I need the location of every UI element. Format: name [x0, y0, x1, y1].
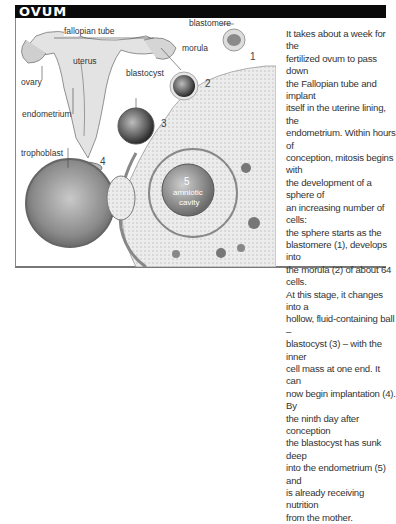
- text-line: blastocyst (3) – with the inner: [286, 338, 396, 363]
- label-blastomere: blastomere: [189, 18, 231, 28]
- title-bar: OVUM: [15, 5, 386, 18]
- label-endometrium: endometrium: [22, 109, 72, 119]
- stage-number-3: 3: [161, 118, 167, 129]
- label-morula: morula: [182, 43, 208, 53]
- ovum-illustration: fallopian tube uterus ovary endometrium …: [16, 18, 276, 267]
- page-title: OVUM: [19, 4, 67, 19]
- label-cavity: cavity: [179, 198, 199, 207]
- text-line: now begin implantation (4). By: [286, 388, 396, 413]
- body-text: It takes about a week for the fertilized…: [286, 28, 396, 524]
- text-line: endometrium. Within hours of: [286, 127, 396, 152]
- stage-number-1: 1: [250, 51, 256, 62]
- text-line: At this stage, it changes into a: [286, 289, 396, 314]
- text-line: the sphere starts as the: [286, 227, 396, 239]
- text-line: conception, mitosis begins with: [286, 152, 396, 177]
- text-line: hollow, fluid-containing ball –: [286, 313, 396, 338]
- text-line: itself in the uterine lining, the: [286, 102, 396, 127]
- diagram-graphic: [16, 18, 276, 267]
- text-line: the ninth day after conception: [286, 413, 396, 438]
- text-line: fertilized ovum to pass down: [286, 53, 396, 78]
- label-blastocyst: blastocyst: [126, 68, 164, 78]
- label-amniotic: amniotic: [173, 188, 203, 197]
- text-line: the blastocyst has sunk deep: [286, 437, 396, 462]
- text-line: the Fallopian tube and implant: [286, 78, 396, 103]
- text-line: blastomere (1), develops into: [286, 239, 396, 264]
- stage-number-4: 4: [100, 156, 106, 167]
- label-fallopian-tube: fallopian tube: [64, 26, 115, 36]
- text-line: It takes about a week for the: [286, 28, 396, 53]
- text-line: cell mass at one end. It can: [286, 363, 396, 388]
- stage-number-5: 5: [184, 176, 190, 187]
- label-uterus: uterus: [73, 56, 97, 66]
- text-line: the morula (2) of about 64 cells.: [286, 264, 396, 289]
- text-line: from the mother.: [286, 512, 396, 524]
- label-ovary: ovary: [21, 77, 42, 87]
- label-trophoblast: trophoblast: [21, 148, 63, 158]
- text-line: an increasing number of cells:: [286, 202, 396, 227]
- text-line: is already receiving nutrition: [286, 487, 396, 512]
- stage-number-2: 2: [205, 78, 211, 89]
- text-line: into the endometrium (5) and: [286, 462, 396, 487]
- text-line: the development of a sphere of: [286, 177, 396, 202]
